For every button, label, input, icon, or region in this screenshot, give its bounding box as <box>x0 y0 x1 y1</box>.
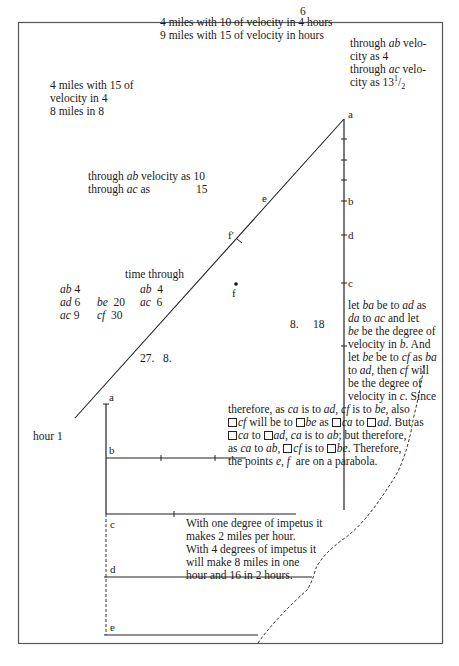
time-through-heading: time through <box>125 268 184 281</box>
right-top-note-line2: city as 4 <box>350 50 388 63</box>
square-symbol-icon <box>283 444 292 453</box>
hypotenuse-line <box>75 119 344 418</box>
right-top-note-line1: through ab velo- <box>350 37 427 50</box>
numbers-8-18: 8. 18 <box>290 318 325 331</box>
top-note-line2: 9 miles with 15 of velocity in hours <box>160 29 324 42</box>
square-symbol-icon <box>264 431 273 440</box>
label-upper-f-prime: f' <box>228 229 234 241</box>
numbers-27-8: 27. 8. <box>140 352 172 365</box>
point-f <box>234 282 238 286</box>
time-row: ab 4 <box>140 283 163 296</box>
mid-note-line2-number: 15 <box>196 183 208 196</box>
label-lower-e: e <box>110 621 115 633</box>
mid-note-line1: through ab velocity as 10 <box>88 170 205 183</box>
label-lower-a: a <box>109 391 114 403</box>
time-row: ad 6 <box>60 296 80 309</box>
square-symbol-icon <box>367 418 376 427</box>
label-lower-d: d <box>110 563 116 575</box>
mid-note-line2: through ac as <box>88 183 150 196</box>
label-upper-b: b <box>348 195 354 207</box>
time-row: ab 4 <box>60 283 80 296</box>
time-row: ac 9 <box>60 309 79 322</box>
right-top-note-line3: through ac velo- <box>350 63 426 76</box>
time-row: ac 6 <box>140 296 162 309</box>
left-top-note-line1: 4 miles with 15 of <box>50 79 134 92</box>
label-upper-d: d <box>348 229 354 241</box>
manuscript-page: 6 4 miles with 10 of velocity in 4 hours… <box>0 0 459 666</box>
left-top-note-line3: 8 miles in 8 <box>50 105 104 118</box>
right-top-note-line4: city as 131/2 <box>350 76 405 89</box>
hour-1-label: hour 1 <box>33 430 63 443</box>
square-symbol-icon <box>327 444 336 453</box>
label-lower-c: c <box>110 518 115 530</box>
label-upper-c: c <box>348 277 353 289</box>
square-symbol-icon <box>296 418 305 427</box>
label-upper-a: a <box>348 108 353 120</box>
top-note-line1: 4 miles with 10 of velocity in 4 hours <box>160 16 332 29</box>
label-upper-e: e <box>262 192 267 204</box>
square-symbol-icon <box>228 431 237 440</box>
label-lower-b: b <box>109 444 115 456</box>
label-upper-f: f <box>232 287 236 299</box>
time-row: cf 30 <box>97 309 123 322</box>
time-row: be 20 <box>97 296 125 309</box>
left-top-note-line2: velocity in 4 <box>50 92 108 105</box>
square-symbol-icon <box>228 418 237 427</box>
square-symbol-icon <box>332 418 341 427</box>
